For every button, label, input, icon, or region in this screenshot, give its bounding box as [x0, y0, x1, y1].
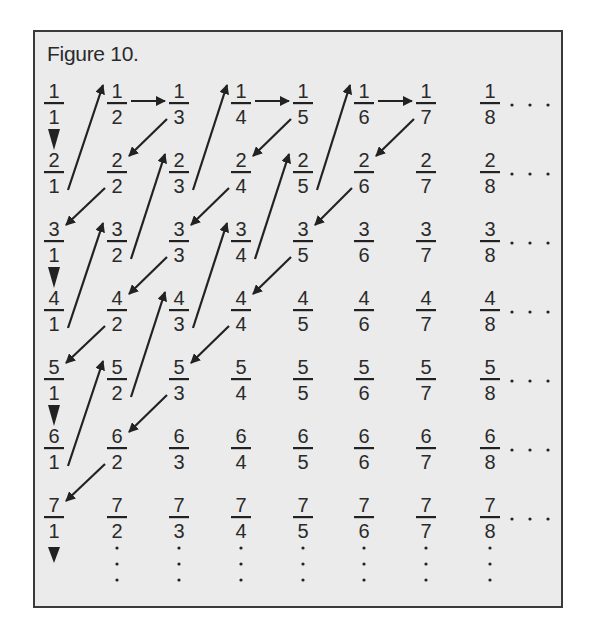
- svg-text:4: 4: [420, 287, 431, 309]
- fraction-1-2: 12: [107, 80, 127, 128]
- fraction-4-2: 42: [107, 287, 127, 335]
- svg-text:6: 6: [358, 451, 369, 473]
- svg-text:1: 1: [111, 80, 122, 102]
- svg-text:2: 2: [48, 149, 59, 171]
- fraction-1-3: 13: [169, 80, 189, 128]
- svg-text:1: 1: [48, 313, 59, 335]
- fraction-3-4: 34: [231, 218, 251, 266]
- svg-text:6: 6: [358, 313, 369, 335]
- fraction-5-5: 55: [293, 356, 313, 404]
- fraction-7-3: 73: [169, 494, 189, 542]
- ellipsis-dot: [528, 517, 531, 520]
- svg-text:5: 5: [297, 356, 308, 378]
- fraction-1-6: 16: [354, 80, 374, 128]
- column-continuation-dot: [239, 562, 242, 565]
- svg-text:2: 2: [111, 244, 122, 266]
- svg-text:6: 6: [358, 106, 369, 128]
- svg-text:5: 5: [420, 356, 431, 378]
- svg-text:8: 8: [484, 451, 495, 473]
- fraction-1-4: 14: [231, 80, 251, 128]
- fraction-7-6: 76: [354, 494, 374, 542]
- ellipsis-dot: [528, 310, 531, 313]
- svg-text:7: 7: [484, 494, 495, 516]
- svg-text:4: 4: [235, 451, 246, 473]
- svg-text:5: 5: [48, 356, 59, 378]
- column-continuation-dot: [115, 562, 118, 565]
- fraction-3-6: 36: [354, 218, 374, 266]
- ellipsis-dot: [546, 379, 549, 382]
- arrow-icon: [191, 326, 229, 363]
- svg-text:7: 7: [111, 494, 122, 516]
- svg-text:7: 7: [358, 494, 369, 516]
- arrow-down-icon: [48, 129, 60, 150]
- svg-text:5: 5: [297, 175, 308, 197]
- ellipsis-dot: [528, 379, 531, 382]
- arrow-icon: [253, 119, 291, 156]
- fraction-4-6: 46: [354, 287, 374, 335]
- svg-text:6: 6: [111, 425, 122, 447]
- svg-text:7: 7: [420, 313, 431, 335]
- svg-text:3: 3: [420, 218, 431, 240]
- svg-text:5: 5: [297, 382, 308, 404]
- ellipsis-dot: [510, 103, 513, 106]
- arrow-down-icon: [48, 405, 60, 426]
- svg-text:8: 8: [484, 313, 495, 335]
- ellipsis-dot: [510, 172, 513, 175]
- arrow-icon: [131, 154, 165, 259]
- ellipsis-dot: [510, 379, 513, 382]
- svg-text:5: 5: [235, 356, 246, 378]
- arrow-icon: [66, 326, 105, 363]
- svg-text:2: 2: [111, 175, 122, 197]
- fraction-4-1: 41: [44, 287, 64, 335]
- fraction-6-5: 65: [293, 425, 313, 473]
- fraction-1-8: 18: [480, 80, 500, 128]
- ellipsis-dot: [546, 517, 549, 520]
- fraction-5-1: 51: [44, 356, 64, 404]
- ellipsis-dot: [510, 310, 513, 313]
- svg-text:7: 7: [173, 494, 184, 516]
- arrow-icon: [193, 85, 227, 190]
- svg-text:4: 4: [235, 382, 246, 404]
- svg-text:5: 5: [297, 244, 308, 266]
- fraction-4-8: 48: [480, 287, 500, 335]
- svg-text:4: 4: [173, 287, 184, 309]
- svg-text:1: 1: [48, 106, 59, 128]
- fraction-3-8: 38: [480, 218, 500, 266]
- column-continuation-dot: [362, 546, 365, 549]
- fraction-5-3: 53: [169, 356, 189, 404]
- ellipsis-dot: [546, 172, 549, 175]
- svg-text:7: 7: [48, 494, 59, 516]
- column-continuation-dot: [177, 546, 180, 549]
- fraction-4-3: 43: [169, 287, 189, 335]
- svg-text:3: 3: [48, 218, 59, 240]
- ellipsis-dot: [510, 241, 513, 244]
- fraction-1-1: 11: [44, 80, 64, 128]
- fraction-7-7: 77: [416, 494, 436, 542]
- column-continuation-dot: [488, 546, 491, 549]
- svg-text:6: 6: [358, 175, 369, 197]
- fraction-5-4: 54: [231, 356, 251, 404]
- ellipsis-dot: [546, 103, 549, 106]
- svg-text:7: 7: [420, 175, 431, 197]
- svg-text:3: 3: [173, 313, 184, 335]
- svg-text:1: 1: [358, 80, 369, 102]
- fraction-6-4: 64: [231, 425, 251, 473]
- fraction-7-1: 71: [44, 494, 64, 542]
- svg-text:2: 2: [111, 451, 122, 473]
- fraction-1-5: 15: [293, 80, 313, 128]
- column-continuation-dot: [177, 578, 180, 581]
- fraction-6-8: 68: [480, 425, 500, 473]
- column-continuation-dot: [301, 562, 304, 565]
- fraction-5-8: 58: [480, 356, 500, 404]
- svg-text:6: 6: [358, 520, 369, 542]
- svg-text:3: 3: [173, 244, 184, 266]
- arrow-icon: [253, 257, 291, 294]
- svg-text:6: 6: [358, 382, 369, 404]
- fraction-3-2: 32: [107, 218, 127, 266]
- svg-text:5: 5: [484, 356, 495, 378]
- svg-text:1: 1: [420, 80, 431, 102]
- svg-text:4: 4: [235, 287, 246, 309]
- fraction-7-2: 72: [107, 494, 127, 542]
- fraction-6-6: 66: [354, 425, 374, 473]
- fraction-2-5: 25: [293, 149, 313, 197]
